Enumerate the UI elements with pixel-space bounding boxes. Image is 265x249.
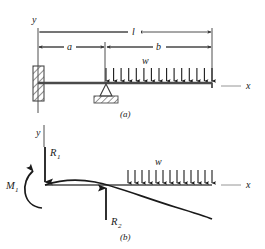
panel-a-caption: (a) xyxy=(120,109,131,119)
pin-support-triangle xyxy=(100,84,112,96)
panel-b-deflection-curve xyxy=(45,180,212,219)
dimension-total-length: l xyxy=(39,26,211,38)
reaction-r1: R 1 xyxy=(45,147,61,182)
figure-canvas: y l a b xyxy=(0,0,265,249)
dimension-left-span: a xyxy=(39,41,104,53)
panel-b-x-axis-label: x xyxy=(245,179,251,190)
reaction-r1-label: R xyxy=(49,147,57,158)
reaction-r2-subscript: 2 xyxy=(118,222,122,230)
pin-support xyxy=(94,84,118,103)
reaction-r2: R 2 xyxy=(106,188,122,230)
dimension-b-label: b xyxy=(156,41,161,52)
panel-a-y-axis-label: y xyxy=(31,14,37,25)
fixed-support-hatch xyxy=(33,66,44,101)
moment-m1-arc xyxy=(25,171,42,208)
fixed-wall-support xyxy=(33,66,44,101)
reaction-r2-label: R xyxy=(110,216,118,227)
panel-b-caption: (b) xyxy=(120,232,131,242)
panel-a: y l a b xyxy=(31,14,251,119)
reaction-r1-subscript: 1 xyxy=(57,153,61,161)
dimension-a-label: a xyxy=(67,41,72,52)
panel-a-distributed-load xyxy=(106,68,212,81)
panel-b: y R 1 M 1 x R 2 xyxy=(5,125,251,242)
beam-diagram-figure: y l a b xyxy=(0,0,265,249)
moment-m1: M 1 xyxy=(5,171,42,208)
panel-a-x-axis-label: x xyxy=(245,80,251,91)
panel-b-distributed-load xyxy=(128,170,212,183)
panel-a-load-label: w xyxy=(142,55,149,66)
panel-b-load-label: w xyxy=(155,156,162,167)
pin-support-ground xyxy=(94,96,118,103)
panel-b-y-axis-label: y xyxy=(35,127,41,138)
moment-m1-subscript: 1 xyxy=(15,186,19,194)
dimension-right-span: b xyxy=(107,41,211,53)
dimension-l-label: l xyxy=(132,26,135,37)
